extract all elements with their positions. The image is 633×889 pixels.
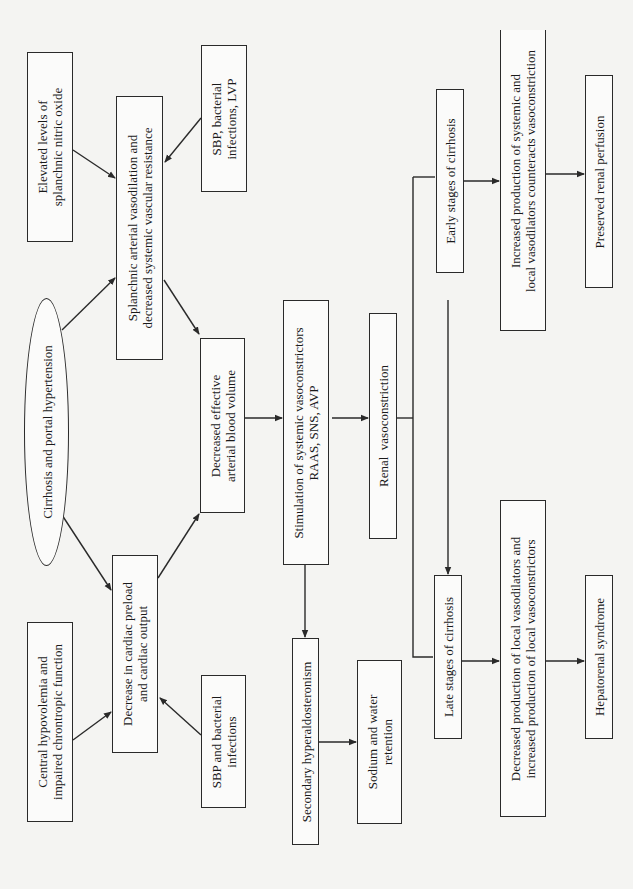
node-elevated-nitric-oxide: Elevated levels ofsplanchnic nitric oxid… (27, 52, 73, 242)
node-stimulation-vasoconstrictors: Stimulation of systemic vasoconstrictors… (283, 300, 329, 565)
node-central-hypovolemia: Central hypovolemia andimpaired chrontro… (27, 622, 73, 822)
node-cirrhosis-portal-hypertension: Cirrhosis and portal hypertension (24, 298, 69, 566)
node-early-stages: Early stages of cirrhosis (436, 89, 464, 273)
node-preserved-renal-perfusion: Preserved renal perfusion (585, 75, 613, 288)
node-secondary-hyperaldosteronism: Secondary hyperaldosteronism (292, 638, 319, 845)
node-renal-vasoconstriction: Renal vasoconstriction (369, 313, 397, 539)
node-hepatorenal-syndrome: Hepatorenal syndrome (585, 575, 613, 739)
node-sbp-bacterial-infections: SBP and bacterialinfections (201, 675, 246, 808)
node-splanchnic-vasodilation: Splanchnic arterial vasodilation anddecr… (116, 96, 163, 360)
node-late-stages: Late stages of cirrhosis (434, 575, 462, 739)
flowchart-canvas: Elevated levels ofsplanchnic nitric oxid… (0, 0, 633, 889)
node-sodium-water-retention: Sodium and waterretention (357, 660, 402, 824)
node-sbp-lvp: SBP, bacterialinfections, LVP (201, 45, 247, 192)
node-increased-production: Increased production of systemic andloca… (500, 30, 546, 331)
node-decreased-effective-arterial-volume: Decreased effectivearterial blood volume (200, 338, 245, 513)
node-decreased-production: Decreased production of local vasodilato… (500, 500, 546, 817)
node-cardiac-preload-output: Decrease in cardiac preloadand cardiac o… (112, 555, 158, 753)
